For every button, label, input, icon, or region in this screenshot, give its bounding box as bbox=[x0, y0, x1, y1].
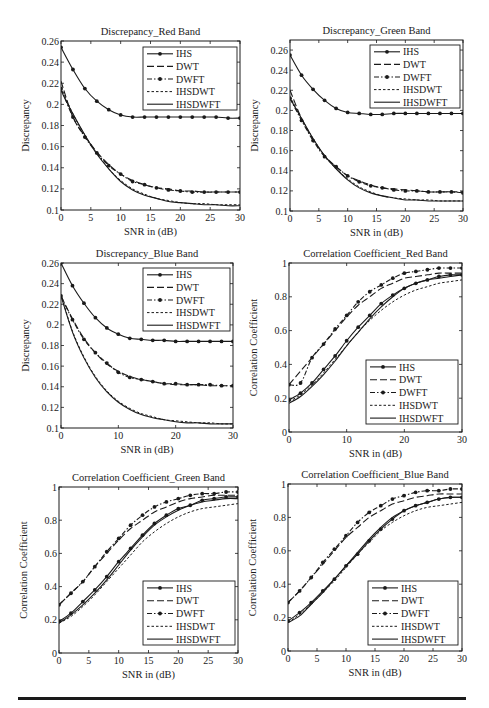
legend-label: IHS bbox=[176, 48, 192, 59]
data-point-marker bbox=[344, 534, 348, 538]
legend-label: DWT bbox=[176, 282, 199, 293]
y-tick-label: 0.2 bbox=[47, 319, 60, 330]
y-tick-label: 0.1 bbox=[47, 205, 60, 216]
y-tick-label: 0.8 bbox=[45, 515, 58, 526]
x-tick-label: 20 bbox=[399, 653, 409, 664]
y-tick-label: 0.16 bbox=[42, 361, 60, 372]
data-point-marker bbox=[220, 384, 224, 388]
data-point-marker bbox=[288, 53, 292, 57]
x-tick-label: 5 bbox=[315, 653, 320, 664]
legend-label: DWT bbox=[399, 374, 422, 385]
x-tick-label: 20 bbox=[399, 434, 409, 445]
data-point-marker bbox=[231, 384, 235, 388]
y-axis-label: Discrepancy bbox=[249, 99, 260, 152]
data-point-marker bbox=[71, 284, 75, 288]
data-point-marker bbox=[309, 576, 313, 580]
chart-title: Discrepancy_Red Band bbox=[101, 26, 201, 37]
data-point-marker bbox=[287, 383, 291, 387]
data-point-marker bbox=[128, 336, 132, 340]
data-point-marker bbox=[357, 112, 361, 116]
data-point-marker bbox=[82, 301, 86, 305]
data-point-marker bbox=[356, 325, 360, 329]
y-tick-label: 0.14 bbox=[271, 165, 289, 176]
data-point-marker bbox=[367, 510, 371, 514]
data-point-marker bbox=[155, 186, 159, 190]
data-point-marker bbox=[231, 339, 235, 343]
data-point-marker bbox=[143, 115, 147, 119]
data-point-marker bbox=[155, 115, 159, 119]
y-tick-label: 0.4 bbox=[275, 359, 288, 370]
data-point-marker bbox=[107, 108, 111, 112]
legend-label: DWFT bbox=[176, 74, 204, 85]
y-tick-label: 0.12 bbox=[271, 185, 289, 196]
y-tick-label: 0.4 bbox=[274, 579, 287, 590]
data-point-marker bbox=[402, 271, 406, 275]
chart-title: Correlation Coefficient_Blue Band bbox=[301, 469, 449, 480]
legend-label: DWFT bbox=[399, 387, 427, 398]
legend-label: IHS bbox=[176, 269, 192, 280]
data-point-marker bbox=[346, 111, 350, 115]
chart-title: Correlation Coefficient_Green Band bbox=[72, 472, 226, 483]
chart-legend: IHSDWTDWFTIHSDWTIHSDWFT bbox=[368, 581, 458, 645]
y-tick-label: 0.1 bbox=[276, 206, 289, 217]
data-point-marker bbox=[310, 356, 314, 360]
data-point-marker bbox=[461, 191, 465, 195]
data-point-marker bbox=[425, 489, 429, 493]
y-tick-label: 0 bbox=[52, 648, 57, 659]
y-tick-label: 0.2 bbox=[274, 612, 287, 623]
chart-panel-disc-red: Discrepancy_Red Band0510152025300.10.120… bbox=[20, 26, 245, 238]
series-line-dwft bbox=[290, 98, 463, 193]
data-point-marker bbox=[202, 190, 206, 194]
legend-label: IHSDWFT bbox=[401, 634, 445, 645]
data-point-marker bbox=[402, 494, 406, 498]
data-point-marker bbox=[379, 504, 383, 508]
x-tick-label: 0 bbox=[287, 434, 292, 445]
chart-legend: IHSDWTDWFTIHSDWTIHSDWFT bbox=[143, 47, 237, 110]
data-point-marker bbox=[345, 313, 349, 317]
series-line-ihsdwt bbox=[290, 96, 463, 201]
x-tick-label: 20 bbox=[175, 212, 185, 223]
data-point-marker bbox=[94, 351, 98, 355]
data-point-marker bbox=[415, 189, 419, 193]
data-point-marker bbox=[105, 361, 109, 365]
legend-label: IHS bbox=[403, 46, 419, 57]
data-point-marker bbox=[69, 591, 73, 595]
data-point-marker bbox=[298, 589, 302, 593]
y-tick-label: 0.14 bbox=[42, 162, 60, 173]
y-tick-label: 0 bbox=[281, 646, 286, 657]
legend-label: DWT bbox=[176, 595, 199, 606]
data-point-marker bbox=[178, 115, 182, 119]
data-point-marker bbox=[449, 487, 453, 491]
data-point-marker bbox=[212, 492, 216, 496]
data-point-marker bbox=[437, 489, 441, 493]
y-axis-label: Correlation Coefficient bbox=[247, 519, 258, 617]
data-point-marker bbox=[345, 339, 349, 343]
x-tick-label: 10 bbox=[114, 655, 124, 666]
data-point-marker bbox=[427, 190, 431, 194]
data-point-marker bbox=[151, 380, 155, 384]
y-tick-label: 0.18 bbox=[271, 125, 289, 136]
data-point-marker bbox=[214, 115, 218, 119]
data-point-marker bbox=[369, 184, 373, 188]
data-point-marker bbox=[71, 318, 75, 322]
y-tick-label: 0.2 bbox=[276, 105, 289, 116]
data-point-marker bbox=[379, 283, 383, 287]
chart-panel-disc-green: Discrepancy_Green Band0510152025300.10.1… bbox=[249, 25, 468, 239]
y-tick-label: 0.22 bbox=[271, 85, 289, 96]
x-tick-label: 10 bbox=[342, 434, 352, 445]
legend-label: IHSDWFT bbox=[176, 634, 220, 645]
y-tick-label: 1 bbox=[281, 479, 286, 490]
x-tick-label: 15 bbox=[372, 213, 382, 224]
y-tick-label: 0.12 bbox=[42, 402, 60, 413]
data-point-marker bbox=[105, 550, 109, 554]
data-point-marker bbox=[139, 378, 143, 382]
x-tick-label: 0 bbox=[59, 430, 64, 441]
data-point-marker bbox=[450, 190, 454, 194]
legend-label: IHS bbox=[401, 583, 417, 594]
x-tick-label: 20 bbox=[171, 430, 181, 441]
data-point-marker bbox=[392, 188, 396, 192]
data-point-marker bbox=[93, 565, 97, 569]
data-point-marker bbox=[334, 107, 338, 111]
y-tick-label: 0.24 bbox=[271, 65, 289, 76]
x-tick-label: 5 bbox=[86, 655, 91, 666]
